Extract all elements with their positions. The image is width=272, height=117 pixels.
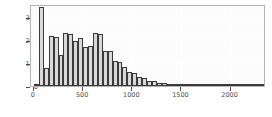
y-tick-mark: [26, 87, 30, 88]
x-tick-label: 1500: [172, 92, 189, 99]
histogram-bars: [31, 6, 264, 86]
histogram-figure: 0100200300 0500100015002000: [0, 0, 272, 117]
plot-panel: [30, 5, 265, 87]
x-tick-label: 1000: [123, 92, 140, 99]
x-tick-label: 2000: [221, 92, 238, 99]
x-tick-label: 0: [31, 92, 35, 99]
histogram-bar: [260, 84, 265, 86]
x-tick-label: 500: [76, 92, 88, 99]
